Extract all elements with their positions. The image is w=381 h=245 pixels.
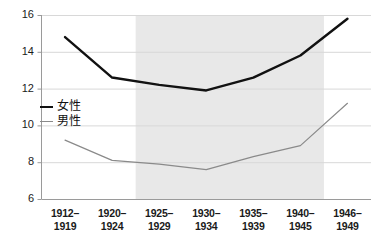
x-label-line-1: 1930– — [183, 207, 230, 220]
y-axis-tick-label: 10 — [14, 119, 34, 130]
shaded-band-group — [136, 15, 324, 199]
x-axis-tick-label: 1930–1934 — [183, 207, 230, 233]
legend-label-male: 男性 — [57, 115, 81, 128]
x-label-line-1: 1946– — [324, 207, 371, 220]
legend-swatch-female-icon — [40, 106, 53, 108]
x-axis-tick-label: 1920–1924 — [89, 207, 136, 233]
x-label-line-1: 1940– — [277, 207, 324, 220]
legend-item-male: 男性 — [40, 114, 81, 129]
x-axis-tick-label: 1940–1945 — [277, 207, 324, 233]
x-label-line-1: 1925– — [136, 207, 183, 220]
y-axis-tick-label: 14 — [14, 46, 34, 57]
x-label-line-2: 1949 — [324, 220, 371, 233]
x-label-line-1: 1935– — [230, 207, 277, 220]
line-chart: 6810121416 1912–19191920–19241925–192919… — [0, 0, 381, 245]
x-axis-tick-label: 1935–1939 — [230, 207, 277, 233]
legend-item-female: 女性 — [40, 99, 81, 114]
x-label-line-2: 1939 — [230, 220, 277, 233]
y-axis-tick-label: 6 — [14, 193, 34, 204]
y-axis-tick-label: 8 — [14, 156, 34, 167]
x-axis-tick-label: 1946–1949 — [324, 207, 371, 233]
legend: 女性 男性 — [40, 99, 81, 129]
y-axis-tick-label: 12 — [14, 83, 34, 94]
legend-label-female: 女性 — [57, 100, 81, 113]
x-label-line-2: 1929 — [136, 220, 183, 233]
x-label-line-2: 1945 — [277, 220, 324, 233]
x-label-line-2: 1919 — [42, 220, 89, 233]
shaded-band — [136, 15, 324, 199]
x-axis-tick-label: 1925–1929 — [136, 207, 183, 233]
x-axis-tick-label: 1912–1919 — [42, 207, 89, 233]
y-axis-tick-label: 16 — [14, 9, 34, 20]
legend-swatch-male-icon — [40, 121, 53, 122]
x-label-line-2: 1924 — [89, 220, 136, 233]
x-label-line-1: 1912– — [42, 207, 89, 220]
x-label-line-2: 1934 — [183, 220, 230, 233]
x-label-line-1: 1920– — [89, 207, 136, 220]
